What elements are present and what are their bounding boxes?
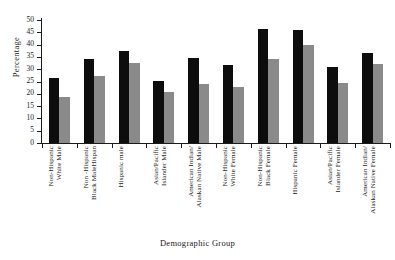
bar-group xyxy=(49,20,70,143)
category-label: Hispanic male xyxy=(117,146,141,234)
bar-dark xyxy=(188,58,199,143)
bar-dark xyxy=(258,29,269,143)
category-label: Hispanic Female xyxy=(291,146,315,234)
y-tick-label: 5 xyxy=(30,125,34,135)
bar-light xyxy=(59,97,70,143)
category-label: Non-Hispanic White Male xyxy=(47,146,71,234)
bar-dark xyxy=(153,81,164,143)
y-tick: 20 xyxy=(37,94,42,95)
bar-dark xyxy=(84,59,95,143)
bar-group xyxy=(84,20,105,143)
plot-area: 05101520253035404550 xyxy=(42,20,390,143)
bar-dark xyxy=(49,78,60,143)
bar-light xyxy=(129,63,140,143)
bar-group xyxy=(188,20,209,143)
category-label: American Indian/ Alaskan Native Male xyxy=(187,146,211,234)
bar-dark xyxy=(362,53,373,143)
bar-dark xyxy=(223,65,234,143)
category-label: Asian/Pacific Islander Female xyxy=(326,146,350,234)
y-tick-label: 20 xyxy=(27,88,35,98)
category-label: American Indian/ Alaskan Native Female xyxy=(361,146,385,234)
y-tick-label: 40 xyxy=(27,39,35,49)
bar-dark xyxy=(327,67,338,143)
y-tick: 15 xyxy=(37,106,42,107)
bar-chart: Percentage 05101520253035404550 Non-Hisp… xyxy=(0,0,395,260)
bar-light xyxy=(233,87,244,143)
x-tick xyxy=(390,143,391,148)
bar-light xyxy=(373,64,384,143)
category-label: Non-Hispanic Black Female xyxy=(256,146,280,234)
y-tick: 25 xyxy=(37,82,42,83)
bar-group xyxy=(362,20,383,143)
y-tick: 40 xyxy=(37,45,42,46)
bar-light xyxy=(268,59,279,143)
y-tick-label: 30 xyxy=(27,64,35,74)
bar-light xyxy=(338,83,349,143)
y-tick: 10 xyxy=(37,118,42,119)
bar-light xyxy=(94,76,105,143)
category-label: Non-Hispanic White Female xyxy=(221,146,245,234)
y-tick: 5 xyxy=(37,131,42,132)
x-axis-title: Demographic Group xyxy=(0,238,395,248)
category-label: Non -Hispanic Black MaleHispan xyxy=(82,146,106,234)
y-tick: 50 xyxy=(37,20,42,21)
bar-light xyxy=(303,45,314,143)
bar-light xyxy=(199,84,210,143)
bar-light xyxy=(164,92,175,143)
y-axis-line xyxy=(41,18,42,143)
y-tick: 30 xyxy=(37,69,42,70)
bar-dark xyxy=(293,30,304,143)
y-tick-label: 15 xyxy=(27,101,35,111)
bar-group xyxy=(153,20,174,143)
y-tick-label: 45 xyxy=(27,27,35,37)
bar-group xyxy=(119,20,140,143)
y-tick: 35 xyxy=(37,57,42,58)
y-tick-label: 0 xyxy=(30,138,34,148)
bar-group xyxy=(223,20,244,143)
y-tick-label: 10 xyxy=(27,113,35,123)
y-tick-label: 35 xyxy=(27,51,35,61)
bar-group xyxy=(293,20,314,143)
x-axis-category-labels: Non-Hispanic White MaleNon -Hispanic Bla… xyxy=(42,146,390,234)
bar-group xyxy=(258,20,279,143)
y-tick-label: 50 xyxy=(27,15,35,25)
bar-dark xyxy=(119,51,130,143)
category-label: Asian/Pacific Islander Male xyxy=(152,146,176,234)
y-tick: 45 xyxy=(37,32,42,33)
y-tick-label: 25 xyxy=(27,76,35,86)
bar-group xyxy=(327,20,348,143)
y-axis-title: Percentage xyxy=(11,7,21,107)
